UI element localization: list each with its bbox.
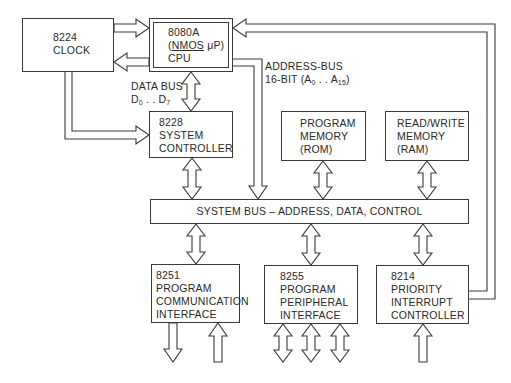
cpu-to-clock-arrow — [114, 53, 149, 71]
rom-line1: PROGRAM — [300, 117, 356, 130]
peripheral-part-number: 8255 — [280, 270, 349, 283]
interrupt-controller-block: 8214 PRIORITY INTERRUPT CONTROLLER — [376, 265, 469, 324]
cpu-block: 8080A (NMOS μP) CPU — [149, 18, 233, 72]
controller-line2: SYSTEM — [159, 129, 233, 142]
comm-line3: COMMUNICATION — [156, 295, 249, 308]
clock-part-number: 8224 — [53, 31, 90, 44]
clock-block: 8224 CLOCK — [22, 18, 114, 72]
interrupt-part-number: 8214 — [391, 270, 465, 283]
controller-line3: CONTROLLER — [159, 142, 233, 155]
data-bus-label: DATA BUS D0 . . D7 — [131, 80, 183, 106]
controller-part-number: 8228 — [159, 116, 233, 129]
interrupt-line3: INTERRUPT — [391, 296, 465, 309]
data-bus-d: D — [131, 93, 139, 105]
peripheral-line4: INTERFACE — [280, 309, 349, 322]
bus-interrupt-arrow — [414, 224, 432, 265]
peripheral-port-a-arrow — [274, 324, 292, 362]
peripheral-interface-block: 8255 PROGRAM PERIPHERAL INTERFACE — [264, 265, 358, 324]
cpu-part-number: 8080A — [168, 26, 224, 39]
address-bus-dots: . . A — [316, 73, 338, 85]
cpu-label: 8080A (NMOS μP) CPU — [168, 26, 224, 65]
comm-interface-label: 8251 PROGRAM COMMUNICATION INTERFACE — [156, 269, 249, 321]
data-bus-title: DATA BUS — [131, 80, 183, 93]
cpu-technology: (NMOS μP) — [168, 39, 224, 52]
cpu-inner-border: 8080A (NMOS μP) CPU — [153, 22, 229, 68]
data-bus-range: D0 . . D7 — [131, 93, 183, 106]
comm-output-arrow — [164, 323, 182, 362]
cpu-tech-nmos: NMOS — [172, 39, 204, 51]
peripheral-interface-label: 8255 PROGRAM PERIPHERAL INTERFACE — [280, 270, 349, 322]
comm-line4: INTERFACE — [156, 308, 249, 321]
rom-line2: MEMORY — [300, 130, 356, 143]
comm-input-arrow — [209, 323, 227, 362]
clock-label: 8224 CLOCK — [53, 31, 90, 57]
interrupt-line4: CONTROLLER — [391, 309, 465, 322]
peripheral-port-b-arrow — [302, 324, 320, 362]
clock-name: CLOCK — [53, 44, 90, 57]
comm-interface-block: 8251 PROGRAM COMMUNICATION INTERFACE — [151, 264, 240, 323]
ram-bus-arrow — [418, 161, 436, 199]
comm-part-number: 8251 — [156, 269, 249, 282]
data-bus-to: 7 — [166, 99, 170, 106]
address-bus-arrow — [233, 59, 267, 199]
comm-line2: PROGRAM — [156, 282, 249, 295]
address-bus-label: ADDRESS-BUS 16-BIT (A0 . . A15) — [265, 60, 350, 86]
ram-line3: (RAM) — [397, 143, 465, 156]
address-bus-close: ) — [346, 73, 350, 85]
bus-comm-arrow — [187, 224, 205, 264]
interrupt-input-arrow — [414, 324, 432, 362]
address-bus-range: 16-BIT (A0 . . A15) — [265, 73, 350, 86]
bus-peripheral-arrow — [302, 224, 320, 265]
system-bus-block: SYSTEM BUS – ADDRESS, DATA, CONTROL — [150, 199, 469, 224]
ram-line1: READ/WRITE — [397, 117, 465, 130]
ram-label: READ/WRITE MEMORY (RAM) — [397, 117, 465, 156]
rom-label: PROGRAM MEMORY (ROM) — [300, 117, 356, 156]
cpu-role: CPU — [168, 52, 224, 65]
peripheral-line3: PERIPHERAL — [280, 296, 349, 309]
clock-to-cpu-arrow — [114, 19, 149, 37]
rom-block: PROGRAM MEMORY (ROM) — [281, 111, 366, 161]
cpu-tech-up: μP) — [204, 39, 224, 51]
system-bus-label: SYSTEM BUS – ADDRESS, DATA, CONTROL — [151, 205, 468, 218]
address-bus-to: 15 — [338, 79, 346, 86]
system-controller-label: 8228 SYSTEM CONTROLLER — [159, 116, 233, 155]
interrupt-line2: PRIORITY — [391, 283, 465, 296]
interrupt-controller-label: 8214 PRIORITY INTERRUPT CONTROLLER — [391, 270, 465, 322]
rom-line3: (ROM) — [300, 143, 356, 156]
address-bus-title: ADDRESS-BUS — [265, 60, 350, 73]
address-bus-prefix: 16-BIT (A — [265, 73, 312, 85]
data-bus-arrow — [182, 72, 200, 111]
peripheral-port-c-arrow — [331, 324, 349, 362]
system-controller-block: 8228 SYSTEM CONTROLLER — [149, 111, 233, 158]
controller-bus-arrow — [183, 158, 201, 199]
peripheral-line2: PROGRAM — [280, 283, 349, 296]
ram-line2: MEMORY — [397, 130, 465, 143]
data-bus-dots: . . — [143, 93, 159, 105]
ram-block: READ/WRITE MEMORY (RAM) — [385, 111, 469, 161]
rom-bus-arrow — [314, 161, 332, 199]
